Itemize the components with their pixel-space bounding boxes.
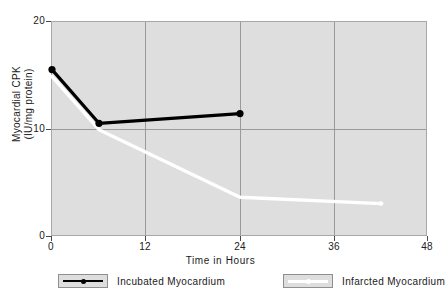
y-axis-label-line2: (IU/mg protein) <box>23 29 35 179</box>
plot-area <box>51 21 427 236</box>
ytick-label-0: 0 <box>5 230 45 241</box>
legend-swatch-white-line-icon <box>283 274 333 288</box>
legend-label-infarcted-myocardium: Infarcted Myocardium <box>342 276 445 287</box>
xtick-label-24: 24 <box>220 241 260 252</box>
xtick-label-36: 36 <box>314 241 354 252</box>
y-axis-label-line1: Myocardial CPK <box>11 29 23 179</box>
data-point-incubated-6 <box>95 120 102 127</box>
series-line-infarcted-myocardium <box>52 77 381 204</box>
series-line-incubated-myocardium <box>52 70 240 124</box>
xtick-label-0: 0 <box>31 241 71 252</box>
legend-item-infarcted-myocardium: Infarcted Myocardium <box>283 274 445 288</box>
ytick-label-20: 20 <box>5 15 45 26</box>
x-axis-label: Time in Hours <box>0 255 441 266</box>
chart-legend: Incubated Myocardium Infarcted Myocardiu… <box>0 274 441 296</box>
legend-item-incubated-myocardium: Incubated Myocardium <box>58 274 225 288</box>
xtick-label-12: 12 <box>125 241 165 252</box>
legend-swatch-black-line-icon <box>58 274 108 288</box>
ytick-mark-20 <box>46 21 51 22</box>
legend-label-incubated-myocardium: Incubated Myocardium <box>117 276 225 287</box>
data-point-incubated-24 <box>236 110 243 117</box>
xtick-label-48: 48 <box>407 241 447 252</box>
y-axis-label: Myocardial CPK (IU/mg protein) <box>11 29 35 179</box>
series-canvas <box>52 22 428 237</box>
data-point-infarcted-0 <box>379 201 384 206</box>
data-point-incubated-0 <box>48 66 55 73</box>
ytick-mark-10 <box>46 129 51 130</box>
